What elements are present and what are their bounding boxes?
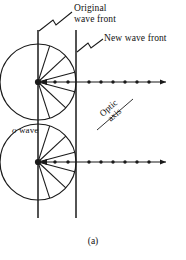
- figure-caption: (a): [0, 236, 186, 246]
- optic-axis-dots-upper: [53, 80, 150, 83]
- leader-original-wave-front: [39, 12, 72, 31]
- label-new-wave-front: New wave front: [104, 33, 167, 44]
- optic-axis-ray-lower: [35, 159, 166, 165]
- label-original-wave-front: Original wave front: [74, 3, 116, 24]
- label-original-wave-front-line2: wave front: [74, 14, 116, 25]
- optic-axis-ray-upper: [35, 79, 166, 85]
- leader-new-wave-front: [77, 39, 103, 52]
- optic-axis-dots-lower: [53, 160, 150, 163]
- label-original-wave-front-line1: Original: [74, 3, 116, 14]
- label-o-wave-text: wave: [17, 125, 39, 135]
- label-o-wave: o wave: [12, 125, 38, 135]
- wavelet-upper-circle: [0, 44, 38, 120]
- wavelet-lower-circle: [0, 124, 38, 200]
